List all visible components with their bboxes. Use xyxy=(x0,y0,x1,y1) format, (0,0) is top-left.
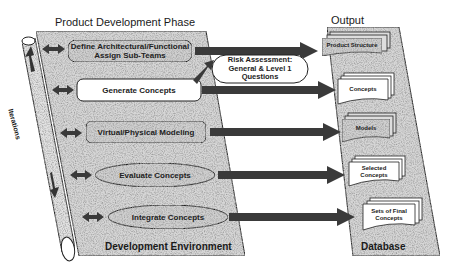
output-selected-line1: Selected xyxy=(362,165,387,172)
arrow-generate-to-concepts xyxy=(202,81,336,99)
risk-assessment: Risk Assessment: General & Level 1 Quest… xyxy=(212,55,308,83)
activity-define-line2: Assign Sub-Teams xyxy=(94,51,165,60)
activity-define: Define Architectural/Functional Assign S… xyxy=(68,40,192,62)
arrow-integrate-to-final xyxy=(229,208,355,226)
output-models: Models xyxy=(342,119,390,138)
output-concepts: Concepts xyxy=(338,79,388,99)
activity-define-line1: Define Architectural/Functional xyxy=(71,42,189,51)
arrow-modeling-to-models xyxy=(210,123,341,141)
activity-evaluate: Evaluate Concepts xyxy=(95,163,215,187)
output-product-structure: Product Structure xyxy=(322,38,382,53)
output-selected-line2: Concepts xyxy=(360,172,387,179)
activity-integrate: Integrate Concepts xyxy=(108,205,228,229)
output-final-concepts: Sets of Final Concepts xyxy=(363,204,415,225)
risk-line3: Questions xyxy=(242,73,279,82)
phase-title: Product Development Phase xyxy=(55,16,195,28)
activity-generate: Generate Concepts xyxy=(77,79,201,101)
database-label: Database xyxy=(361,241,405,252)
output-title: Output xyxy=(331,14,364,26)
arrow-evaluate-to-selected xyxy=(218,166,345,184)
output-final-line1: Sets of Final xyxy=(371,208,407,215)
activity-modeling: Virtual/Physical Modeling xyxy=(86,121,206,143)
output-selected-concepts: Selected Concepts xyxy=(349,162,399,181)
environment-label: Development Environment xyxy=(105,241,232,252)
output-final-line2: Concepts xyxy=(375,215,402,222)
